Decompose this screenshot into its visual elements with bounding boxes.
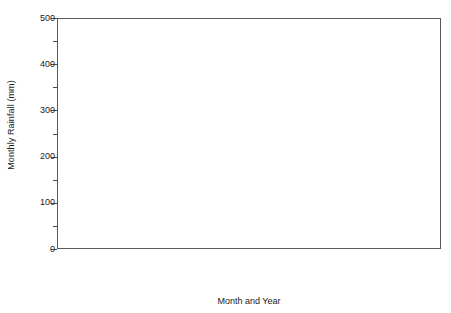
bars-container [58,19,440,248]
plot-area [57,18,441,249]
x-axis-title: Month and Year [57,296,441,306]
monthly-rainfall-bar-chart: Monthly Rainfall (mm) 0100200300400500 M… [0,0,451,313]
y-tick-label: 200 [0,152,55,161]
y-tick-label: 100 [0,198,55,207]
y-axis-title: Monthly Rainfall (mm) [0,0,22,249]
y-tick-label: 500 [0,14,55,23]
y-tick-label: 300 [0,106,55,115]
y-tick-label: 400 [0,60,55,69]
y-tick-label: 0 [0,245,55,254]
